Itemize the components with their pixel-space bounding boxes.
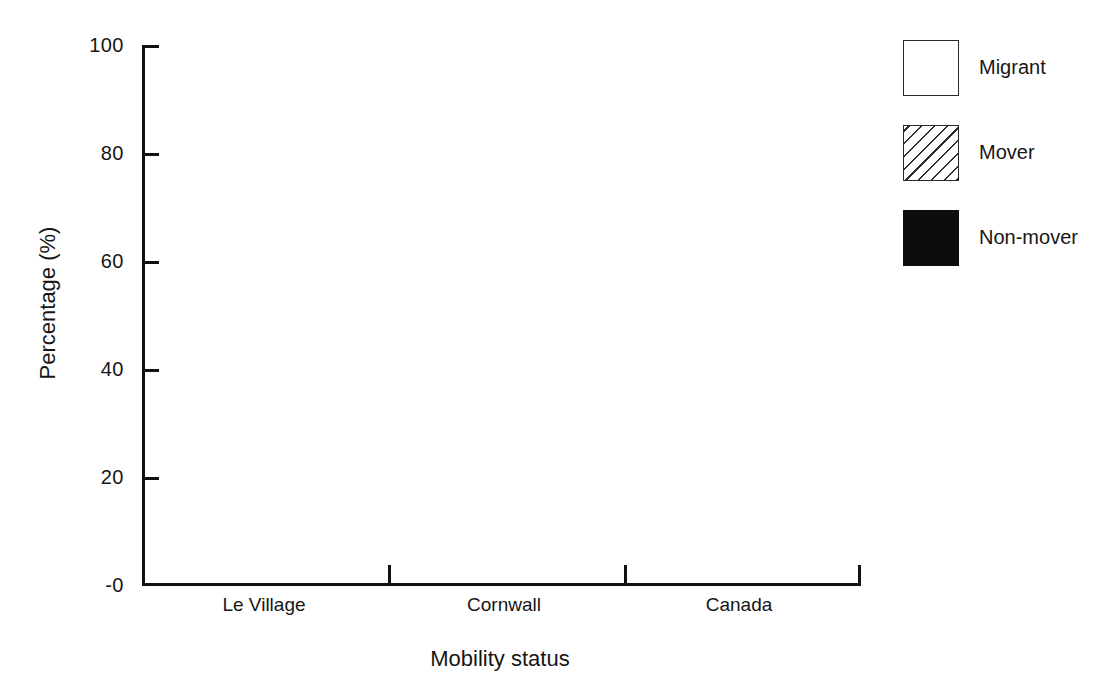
y-axis-tick-label-0-wrap: -0 <box>62 575 124 595</box>
legend-label-non-mover: Non-mover <box>979 227 1078 247</box>
x-axis-tick-divider-1 <box>388 565 391 586</box>
legend-label-migrant: Migrant <box>979 57 1046 77</box>
y-axis-tick-label-60-wrap: 60 <box>62 251 124 271</box>
y-axis-title: Percentage (%) <box>35 143 61 463</box>
y-axis-tick-label-80: 80 <box>64 143 124 163</box>
x-axis-tick-divider-2 <box>624 565 627 586</box>
x-axis-title: Mobility status <box>0 646 1000 672</box>
legend-swatch-mover-icon <box>903 125 959 181</box>
y-axis-tick-20 <box>142 477 159 480</box>
y-axis-tick-label-100-wrap: 100 <box>62 35 124 55</box>
y-axis-tick-100 <box>142 45 159 48</box>
y-axis-tick-80 <box>142 153 159 156</box>
x-axis-end-tick <box>858 565 861 586</box>
y-axis-tick-label-40: 40 <box>64 359 124 379</box>
stacked-bar-chart: 100 80 60 40 20 -0 Percentage (%) Le Vil… <box>0 0 1110 690</box>
y-axis-tick-label-60: 60 <box>64 251 124 271</box>
y-axis-tick-label-40-wrap: 40 <box>62 359 124 379</box>
y-axis-tick-label-80-wrap: 80 <box>62 143 124 163</box>
x-axis-category-cornwall: Cornwall <box>394 594 614 617</box>
x-axis-category-canada: Canada <box>629 594 849 617</box>
y-axis-line <box>142 45 145 586</box>
y-axis-tick-label-20: 20 <box>64 467 124 487</box>
y-axis-tick-label-0: -0 <box>64 575 124 595</box>
x-axis-line <box>142 583 861 586</box>
y-axis-tick-label-20-wrap: 20 <box>62 467 124 487</box>
legend-swatch-migrant-icon <box>903 40 959 96</box>
legend-label-mover: Mover <box>979 142 1035 162</box>
legend-swatch-non-mover-icon <box>903 210 959 266</box>
y-axis-tick-60 <box>142 261 159 264</box>
y-axis-tick-40 <box>142 369 159 372</box>
x-axis-category-le-village: Le Village <box>154 594 374 617</box>
y-axis-tick-label-100: 100 <box>64 35 124 55</box>
